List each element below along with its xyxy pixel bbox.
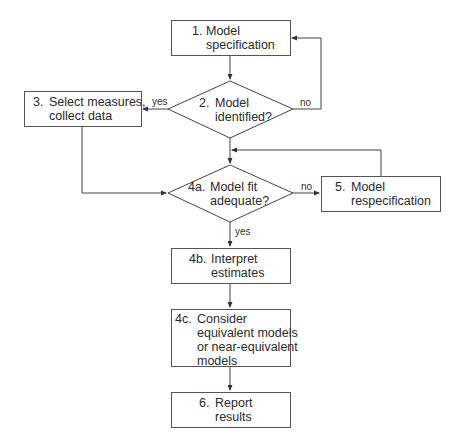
node-text: collect data	[49, 109, 112, 123]
node-4a-model-fit-adequate: 4a.Model fit adequate?	[188, 180, 269, 208]
node-text: Model fit	[210, 180, 257, 194]
node-text: results	[215, 410, 252, 424]
node-number: 3.	[33, 95, 49, 109]
node-number: 5.	[335, 180, 351, 194]
node-5-model-respecification: 5.Model respecification	[321, 176, 441, 212]
node-text: specification	[206, 38, 275, 52]
node-text: Consider	[197, 312, 247, 326]
node-4c-consider-equivalent-models: 4c.Consider equivalent models or near-eq…	[171, 309, 291, 367]
node-3-select-measures: 3.Select measures, collect data	[24, 91, 142, 127]
node-2-model-identified: 2.Model identified?	[199, 96, 272, 124]
node-text: or near-equivalent	[197, 340, 298, 354]
node-number: 4b.	[189, 252, 211, 266]
edge-label-yes: yes	[152, 96, 168, 107]
node-1-model-specification: 1.Model specification	[171, 20, 291, 56]
node-number: 1.	[192, 24, 206, 38]
node-text: adequate?	[210, 194, 269, 208]
node-4b-interpret-estimates: 4b.Interpret estimates	[171, 248, 291, 284]
node-text: respecification	[351, 194, 431, 208]
node-6-report-results: 6.Report results	[171, 392, 291, 428]
node-text: Model	[206, 24, 240, 38]
edge-label-no: no	[301, 181, 312, 192]
node-text: Interpret	[211, 252, 258, 266]
node-text: Model	[351, 180, 385, 194]
node-text: identified?	[215, 110, 272, 124]
node-text: Model	[215, 96, 249, 110]
node-number: 4c.	[175, 312, 197, 326]
edge-label-yes: yes	[235, 226, 251, 237]
node-number: 6.	[199, 396, 215, 410]
node-text: Select measures,	[49, 95, 146, 109]
node-number: 4a.	[188, 180, 210, 194]
node-text: equivalent models	[197, 326, 298, 340]
connector-layer	[0, 0, 461, 442]
node-text: Report	[215, 396, 253, 410]
edge-label-no: no	[300, 97, 311, 108]
node-number: 2.	[199, 96, 215, 110]
node-text: models	[197, 354, 237, 368]
node-text: estimates	[211, 266, 265, 280]
